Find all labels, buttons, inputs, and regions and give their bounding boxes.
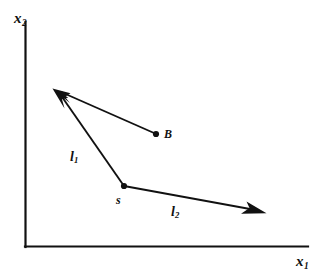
vector-l1-label-subscript: 1 xyxy=(74,155,78,165)
point-s-label: s xyxy=(116,194,121,206)
point-b-label: B xyxy=(164,128,172,140)
y-axis-label: x2 xyxy=(14,11,27,26)
x-axis-label-subscript: 1 xyxy=(304,261,309,271)
y-axis-label-subscript: 2 xyxy=(22,18,27,28)
x-axis-label: x1 xyxy=(296,254,309,269)
vector-b-to-tip-shaft xyxy=(61,92,154,133)
x-axis-label-base: x xyxy=(296,253,304,269)
vector-l2-label-subscript: 2 xyxy=(175,210,179,220)
vector-l1-shaft xyxy=(60,94,124,186)
vector-l2-label: l2 xyxy=(171,205,179,219)
vector-l1-label: l1 xyxy=(70,150,78,164)
vector-l2-shaft xyxy=(124,186,250,209)
vector-l2-group xyxy=(124,186,267,214)
point-s-marker xyxy=(121,183,127,189)
y-axis-label-base: x xyxy=(14,10,22,26)
vector-diagram-figure: x2 x1 l1 l2 B s xyxy=(0,0,328,278)
point-b-marker xyxy=(153,131,159,137)
vector-b-to-tip-group xyxy=(53,89,155,134)
